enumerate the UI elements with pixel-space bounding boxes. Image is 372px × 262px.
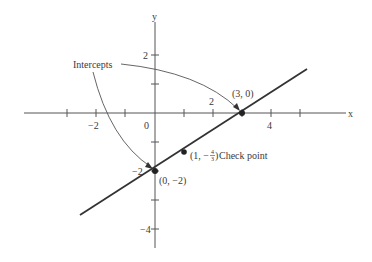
svg-text:(1, −: (1, − <box>190 150 209 162</box>
y-axis-label: y <box>152 11 157 22</box>
svg-text:): ) <box>215 150 218 162</box>
origin-label: 0 <box>144 120 149 131</box>
x-tick-label-2: 2 <box>209 96 214 107</box>
graph-figure: x y −2 0 2 4 2 −2 −4 Intercepts (3, 0) (… <box>0 0 372 262</box>
x-axis-label: x <box>348 108 353 119</box>
y-intercept-label: (0, −2) <box>159 175 186 187</box>
intercepts-label: Intercepts <box>73 59 113 70</box>
x-tick-label-4: 4 <box>267 120 272 131</box>
arrowhead-icon <box>145 162 153 169</box>
svg-text:4: 4 <box>211 149 214 155</box>
arrowhead-icon <box>233 103 240 111</box>
x-axis <box>24 109 346 117</box>
intercepts-arrow-to-x <box>121 64 238 109</box>
y-tick-label-neg4: −4 <box>140 224 151 235</box>
svg-text:3: 3 <box>211 156 214 162</box>
check-point-text: Check point <box>219 150 268 161</box>
y-axis <box>151 22 159 248</box>
check-point-label: (1, − 4 3 ) Check point <box>190 149 268 162</box>
x-tick-label-neg2: −2 <box>88 120 99 131</box>
graph-line <box>80 69 307 215</box>
intercepts-arrow-to-y <box>93 72 151 167</box>
y-tick-label-2: 2 <box>143 50 148 61</box>
x-intercept-label: (3, 0) <box>232 88 254 100</box>
check-point <box>181 149 187 155</box>
